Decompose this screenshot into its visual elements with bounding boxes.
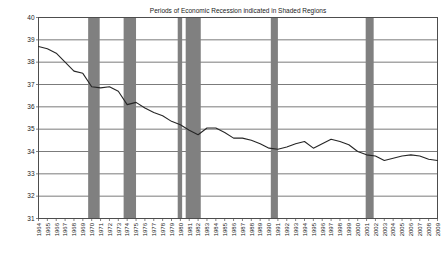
x-tick-label-1984: 1984 (213, 222, 219, 236)
recession-line-chart: 31323334353637383940 1964196519661967196… (0, 0, 447, 254)
x-tick-label-2006: 2006 (408, 222, 414, 236)
x-tick-label-1992: 1992 (284, 222, 290, 236)
x-axis-ticks-group: 1964196519661967196819691970197119721973… (36, 219, 441, 237)
x-tick-label-1985: 1985 (222, 222, 228, 236)
x-tick-label-1998: 1998 (337, 222, 343, 236)
x-tick-label-1997: 1997 (328, 222, 334, 236)
x-tick-label-1990: 1990 (266, 222, 272, 236)
x-tick-label-1989: 1989 (257, 222, 263, 236)
chart-title: Periods of Economic Recession indicated … (150, 7, 327, 15)
y-tick-label-39: 39 (27, 36, 35, 43)
x-tick-label-1987: 1987 (240, 222, 246, 236)
recession-1981-1982 (186, 18, 201, 219)
x-tick-label-2001: 2001 (364, 222, 370, 236)
x-tick-label-1996: 1996 (320, 222, 326, 236)
y-tick-label-32: 32 (27, 192, 35, 199)
x-tick-label-1971: 1971 (98, 222, 104, 236)
x-tick-label-1991: 1991 (275, 222, 281, 236)
x-tick-label-2007: 2007 (417, 222, 423, 236)
y-tick-label-37: 37 (27, 81, 35, 88)
x-tick-label-1968: 1968 (71, 222, 77, 236)
x-tick-label-1999: 1999 (346, 222, 352, 236)
recession-shaded-regions-group (88, 18, 374, 219)
x-tick-label-1994: 1994 (302, 222, 308, 236)
x-tick-label-1976: 1976 (142, 222, 148, 236)
x-tick-label-1988: 1988 (249, 222, 255, 236)
x-tick-label-2002: 2002 (373, 222, 379, 236)
y-tick-label-38: 38 (27, 58, 35, 65)
x-tick-label-1993: 1993 (293, 222, 299, 236)
x-tick-label-1972: 1972 (107, 222, 113, 236)
x-tick-label-1967: 1967 (62, 222, 68, 236)
y-tick-label-40: 40 (27, 14, 35, 21)
x-tick-label-1964: 1964 (36, 222, 42, 236)
x-tick-label-1974: 1974 (124, 222, 130, 236)
y-tick-label-31: 31 (27, 215, 35, 222)
x-tick-label-1969: 1969 (80, 222, 86, 236)
recession-1980 (178, 18, 182, 219)
y-axis-ticks-group: 31323334353637383940 (27, 14, 38, 222)
x-tick-label-2009: 2009 (435, 222, 441, 236)
x-tick-label-1965: 1965 (45, 222, 51, 236)
x-tick-label-2000: 2000 (355, 222, 361, 236)
x-tick-label-1975: 1975 (133, 222, 139, 236)
x-tick-label-1982: 1982 (195, 222, 201, 236)
chart-canvas: 31323334353637383940 1964196519661967196… (0, 0, 447, 254)
x-tick-label-1977: 1977 (151, 222, 157, 236)
y-tick-label-36: 36 (27, 103, 35, 110)
recession-1990-1991 (271, 18, 278, 219)
x-tick-label-2003: 2003 (382, 222, 388, 236)
x-tick-label-1995: 1995 (311, 222, 317, 236)
y-tick-label-35: 35 (27, 125, 35, 132)
x-tick-label-1980: 1980 (178, 222, 184, 236)
y-tick-label-33: 33 (27, 170, 35, 177)
recession-2001 (366, 18, 374, 219)
recession-1969-1970 (88, 18, 100, 219)
x-tick-label-1966: 1966 (54, 222, 60, 236)
x-tick-label-2008: 2008 (426, 222, 432, 236)
x-tick-label-1981: 1981 (187, 222, 193, 236)
x-tick-label-1978: 1978 (160, 222, 166, 236)
recession-1973-1975 (124, 18, 136, 219)
x-tick-label-1970: 1970 (89, 222, 95, 236)
x-tick-label-2005: 2005 (399, 222, 405, 236)
x-tick-label-1983: 1983 (204, 222, 210, 236)
x-tick-label-1973: 1973 (116, 222, 122, 236)
x-tick-label-2004: 2004 (390, 222, 396, 236)
x-tick-label-1986: 1986 (231, 222, 237, 236)
y-tick-label-34: 34 (27, 148, 35, 155)
x-tick-label-1979: 1979 (169, 222, 175, 236)
